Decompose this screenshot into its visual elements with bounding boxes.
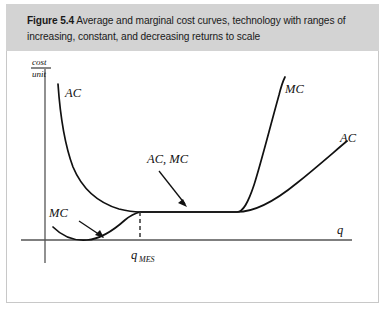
cost-curves-chart: cost unit q q MES AC MC [7,51,380,303]
annotation-ac-mc-center-pointer [159,171,187,207]
figure-container: Figure 5.4 Average and marginal cost cur… [0,0,385,309]
plot-area: cost unit q q MES AC MC [6,51,379,303]
annotation-ac-mc-center: AC, MC [146,152,189,166]
average-cost-curve [58,84,347,212]
y-axis-label-numerator: cost [32,57,47,67]
q-mes-label-subscript: MES [138,255,155,264]
x-axis-tick-q-mes: q MES [131,248,155,264]
annotation-ac-right: AC [339,131,357,145]
x-axis-label: q [337,223,343,237]
annotation-mc-right: MC [284,82,304,96]
annotation-mc-left: MC [48,206,68,220]
figure-caption-text: Average and marginal cost curves, techno… [27,15,345,42]
y-axis-label: cost unit [31,57,51,79]
q-mes-label-base: q [131,248,137,262]
figure-caption-band: Figure 5.4 Average and marginal cost cur… [6,4,379,51]
annotation-ac-left: AC [64,86,82,100]
figure-caption: Figure 5.4 Average and marginal cost cur… [27,13,357,44]
annotation-mc-left-pointer [79,221,104,238]
y-axis-label-denominator: unit [32,69,47,79]
figure-number: Figure 5.4 [27,15,74,26]
